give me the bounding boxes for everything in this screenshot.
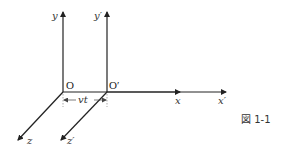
y-axis-label: y	[51, 10, 58, 21]
frame-s-prime: y′ x′ z′ O′	[61, 10, 227, 146]
frame-s: y x z O	[18, 10, 181, 146]
z-prime-axis-label: z′	[66, 135, 75, 146]
displacement-dimension: vt	[63, 94, 107, 107]
displacement-label: vt	[78, 94, 89, 105]
x-axis-label: x	[175, 95, 181, 106]
x-prime-axis-label: x′	[218, 95, 227, 106]
z-axis-label: z	[26, 135, 33, 146]
coordinate-frames-diagram: y x z O y′ x′ z′ O′ vt	[0, 0, 283, 151]
figure-caption: 図 1-1	[241, 111, 271, 126]
origin-label: O	[66, 79, 74, 91]
origin-prime-label: O′	[109, 79, 119, 91]
z-axis	[18, 92, 63, 140]
y-prime-axis-label: y′	[93, 10, 103, 21]
